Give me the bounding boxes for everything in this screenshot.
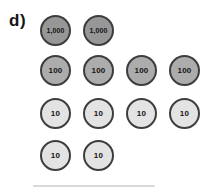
counter-row-tens-row-2: 1010 — [40, 140, 114, 171]
counter-value: 100 — [49, 67, 63, 75]
counter-value: 10 — [94, 152, 103, 160]
place-value-counters-figure: d) 1,0001,000100100100100101010101010 — [0, 0, 209, 188]
counter-10: 10 — [40, 140, 71, 171]
counter-100: 100 — [126, 55, 157, 86]
counter-1000: 1,000 — [83, 15, 114, 46]
scan-artifact-line — [33, 185, 155, 187]
counter-value: 10 — [94, 110, 103, 118]
counter-10: 10 — [126, 98, 157, 129]
counter-row-tens-row-1: 10101010 — [40, 98, 200, 129]
counter-value: 10 — [51, 110, 60, 118]
counter-100: 100 — [169, 55, 200, 86]
counter-value: 10 — [180, 110, 189, 118]
counter-value: 10 — [51, 152, 60, 160]
counter-10: 10 — [83, 98, 114, 129]
counter-row-thousands: 1,0001,000 — [40, 15, 114, 46]
counter-row-hundreds: 100100100100 — [40, 55, 200, 86]
counter-value: 10 — [137, 110, 146, 118]
counter-10: 10 — [169, 98, 200, 129]
counter-10: 10 — [40, 98, 71, 129]
item-label: d) — [9, 11, 26, 31]
counter-100: 100 — [40, 55, 71, 86]
counter-value: 100 — [178, 67, 192, 75]
counter-100: 100 — [83, 55, 114, 86]
counter-value: 1,000 — [89, 27, 107, 34]
counter-value: 1,000 — [46, 27, 64, 34]
counter-value: 100 — [92, 67, 106, 75]
counter-10: 10 — [83, 140, 114, 171]
counter-value: 100 — [135, 67, 149, 75]
counter-1000: 1,000 — [40, 15, 71, 46]
